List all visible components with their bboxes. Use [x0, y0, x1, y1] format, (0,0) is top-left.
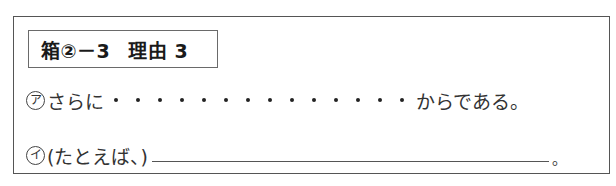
- ellipsis-dots: [114, 98, 408, 102]
- dot: [400, 98, 404, 102]
- dot: [268, 98, 272, 102]
- dot: [312, 98, 316, 102]
- section-title: 理由 3: [128, 36, 188, 63]
- dot: [290, 98, 294, 102]
- dot: [114, 98, 118, 102]
- row-a-suffix: からである。: [416, 87, 529, 114]
- section-box-label: 箱②－3: [41, 36, 110, 63]
- dot: [378, 98, 382, 102]
- row-b-prefix: (たとえば、): [47, 142, 148, 169]
- dot: [246, 98, 250, 102]
- dot: [356, 98, 360, 102]
- answer-blank-line[interactable]: [152, 141, 549, 162]
- dot: [136, 98, 140, 102]
- dot: [202, 98, 206, 102]
- dot: [334, 98, 338, 102]
- row-b-suffix: 。: [552, 147, 567, 168]
- dot: [224, 98, 228, 102]
- dot: [158, 98, 162, 102]
- circled-a-marker-icon: ア: [26, 91, 45, 110]
- dot: [180, 98, 184, 102]
- row-a: ア さらに からである。: [26, 86, 529, 114]
- row-a-prefix: さらに: [47, 87, 104, 114]
- circled-i-marker-icon: イ: [26, 146, 45, 165]
- row-b: イ (たとえば、) 。: [26, 141, 567, 169]
- section-header: 箱②－3 理由 3: [28, 30, 218, 68]
